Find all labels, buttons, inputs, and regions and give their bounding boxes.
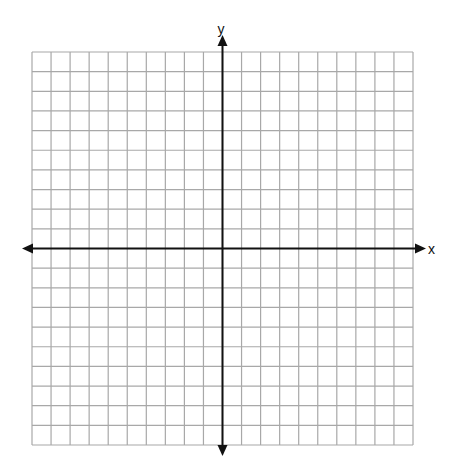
y-axis-down-arrow-icon (218, 445, 228, 456)
y-axis-label: y (218, 21, 225, 37)
x-axis-label: x (428, 241, 435, 257)
x-axis-left-arrow-icon (22, 244, 33, 254)
axes (22, 35, 426, 456)
coordinate-plane: x y (0, 0, 454, 472)
x-axis-right-arrow-icon (415, 244, 426, 254)
